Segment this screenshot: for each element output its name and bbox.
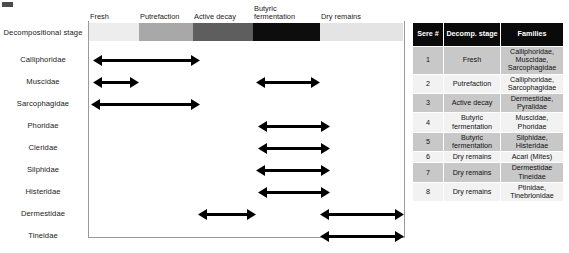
table-row: 6Dry remainsAcari (Mites)	[413, 152, 564, 163]
stage-caption-0: Fresh	[90, 13, 109, 21]
taxa-label-silphidae: Silphidae	[0, 165, 86, 174]
taxa-label-histeridae: Histeridae	[0, 187, 86, 196]
range-arrow-muscidae-1	[93, 77, 139, 88]
table-cell-sere: 7	[413, 163, 444, 182]
table-cell-stage: Active decay	[444, 94, 501, 113]
taxa-label-cleridae: Cleridae	[0, 143, 86, 152]
table-cell-stage: Fresh	[444, 47, 501, 75]
taxa-label-dermestidae: Dermestidae	[0, 209, 86, 218]
table-cell-stage: Butyric fermentation	[444, 132, 501, 151]
taxa-label-phoridae: Phoridae	[0, 121, 86, 130]
corner-mark	[2, 2, 13, 7]
sere-summary-table: Sere # Decomp. stage Families 1FreshCall…	[412, 22, 564, 202]
table-cell-families: Dermestidae Tineidae	[501, 163, 564, 182]
table-cell-families: Silphidae, Histeridae	[501, 132, 564, 151]
column-header-sere: Sere #	[413, 23, 444, 47]
stage-segment-0	[89, 23, 139, 41]
table-cell-stage: Butyric fermentation	[444, 113, 501, 132]
table-row: 7Dry remainsDermestidae Tineidae	[413, 163, 564, 182]
table-cell-stage: Dry remains	[444, 152, 501, 163]
table-cell-families: Calliphoridae, Muscidae, Sarcophagidae	[501, 47, 564, 75]
taxa-label-sarcophagidae: Sarcophagidae	[0, 99, 86, 108]
taxa-label-calliphoridae: Calliphoridae	[0, 55, 86, 64]
range-arrow-tineidae-1	[320, 231, 404, 242]
range-arrow-sarcophagidae-1	[91, 99, 200, 110]
table-cell-families: Ptinidae, Tinebrionidae	[501, 182, 564, 201]
table-cell-sere: 5	[413, 132, 444, 151]
table-cell-families: Calliphoridae, Sarcophagidae	[501, 74, 564, 93]
table-row: 2PutrefactionCalliphoridae, Sarcophagida…	[413, 74, 564, 93]
table-cell-families: Muscidae, Phoridae	[501, 113, 564, 132]
range-arrow-cleridae-1	[258, 143, 330, 154]
table-cell-sere: 2	[413, 74, 444, 93]
taxa-label-muscidae: Muscidae	[0, 77, 86, 86]
stage-segment-1	[139, 23, 193, 41]
taxa-label-tineidae: Tineidae	[0, 231, 86, 240]
decomposition-succession-figure: FreshPutrefactionActive decayButyric fer…	[0, 0, 569, 253]
range-arrow-dermestidae-2	[320, 209, 404, 220]
table-header-row: Sere # Decomp. stage Families	[413, 23, 564, 47]
table-cell-sere: 8	[413, 182, 444, 201]
stage-caption-4: Dry remains	[321, 13, 361, 21]
stage-caption-2: Active decay	[194, 13, 236, 21]
stage-caption-3: Butyric fermentation	[254, 5, 295, 22]
range-arrow-muscidae-2	[256, 77, 320, 88]
table-cell-sere: 4	[413, 113, 444, 132]
stage-segment-3	[253, 23, 320, 41]
axis-title-text: Decompositional stage	[4, 28, 83, 37]
table-row: 8Dry remainsPtinidae, Tinebrionidae	[413, 182, 564, 201]
table-cell-stage: Dry remains	[444, 182, 501, 201]
range-arrow-phoridae-1	[258, 121, 330, 132]
row-label-decompositional-stage: Decompositional stage	[0, 29, 86, 38]
table-cell-sere: 1	[413, 47, 444, 75]
table-row: 4Butyric fermentationMuscidae, Phoridae	[413, 113, 564, 132]
range-arrow-dermestidae-1	[198, 209, 256, 220]
table-cell-stage: Putrefaction	[444, 74, 501, 93]
decomposition-stage-bar	[89, 23, 403, 41]
range-arrow-calliphoridae-1	[93, 55, 200, 66]
table-cell-sere: 6	[413, 152, 444, 163]
stage-segment-2	[193, 23, 253, 41]
stage-segment-4	[320, 23, 403, 41]
table-cell-families: Acari (Mites)	[501, 152, 564, 163]
table-cell-sere: 3	[413, 94, 444, 113]
stage-caption-1: Putrefaction	[140, 13, 179, 21]
range-arrow-silphidae-1	[256, 165, 330, 176]
column-header-stage: Decomp. stage	[444, 23, 501, 47]
table-row: 1FreshCalliphoridae, Muscidae, Sarcophag…	[413, 47, 564, 75]
table-cell-families: Dermestidae, Pyralidae	[501, 94, 564, 113]
column-header-families: Families	[501, 23, 564, 47]
table-row: 3Active decayDermestidae, Pyralidae	[413, 94, 564, 113]
range-arrow-histeridae-1	[258, 187, 330, 198]
table-cell-stage: Dry remains	[444, 163, 501, 182]
table-row: 5Butyric fermentationSilphidae, Histerid…	[413, 132, 564, 151]
